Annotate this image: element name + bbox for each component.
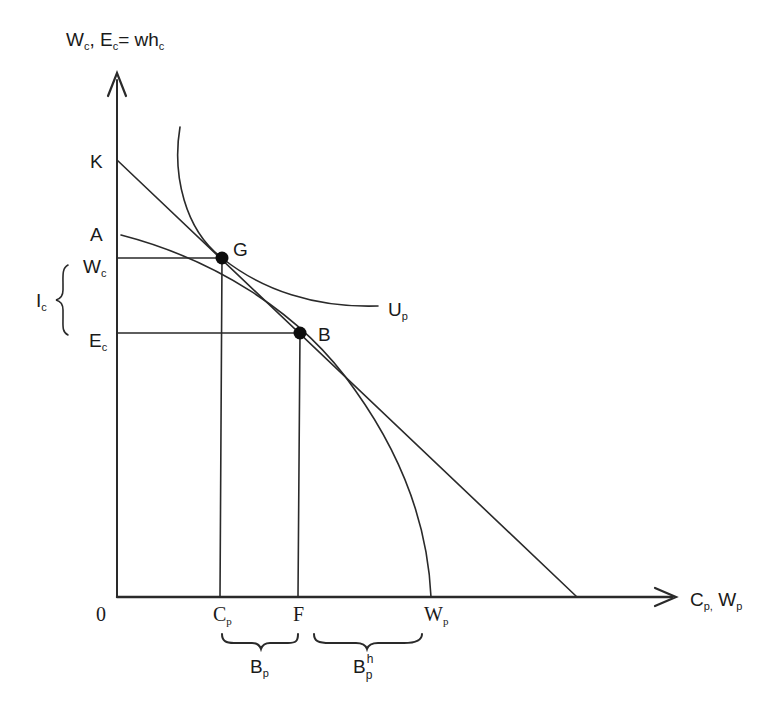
x-axis-label-sub2: p <box>736 600 742 612</box>
brace-bp <box>222 634 298 649</box>
label-k: K <box>90 152 103 171</box>
y-axis-label-eq: = wh <box>118 29 159 50</box>
label-up-main: U <box>388 299 402 320</box>
label-bph-main: B <box>353 656 366 677</box>
label-bph-sup: h <box>367 653 374 665</box>
label-a: A <box>90 225 103 244</box>
label-cp-sub: p <box>226 615 232 627</box>
label-bph-scripts: hp <box>366 663 376 673</box>
label-bp: Bp <box>250 657 269 679</box>
brace-bph <box>314 634 422 649</box>
label-wc: Wc <box>83 257 106 279</box>
label-f: F <box>293 604 304 624</box>
label-bp-sub: p <box>263 667 269 679</box>
label-wp-sub: p <box>443 615 449 627</box>
label-bph-sub: p <box>366 669 373 681</box>
label-up-sub: p <box>402 310 408 322</box>
label-b: B <box>318 325 331 344</box>
label-wp-main: W <box>424 603 443 625</box>
y-axis-label-sub3: c <box>159 40 165 52</box>
y-axis-label-e: , E <box>89 29 112 50</box>
label-ec-main: E <box>89 330 102 351</box>
x-axis-label-w: W <box>713 589 736 610</box>
label-wc-main: W <box>83 256 101 277</box>
x-axis-label: Cp, Wp <box>690 590 742 612</box>
label-bph: Bhp <box>353 657 376 676</box>
label-cp: Cp <box>213 604 232 627</box>
point-b-dot <box>294 327 307 340</box>
x-axis-label-c: C <box>690 589 704 610</box>
indifference-curve-up <box>178 127 378 306</box>
diagram-svg <box>0 0 780 712</box>
y-axis-label-w: W <box>66 29 84 50</box>
label-up: Up <box>388 300 408 322</box>
diagram-canvas: Wc, Ec= whc Cp, Wp K A Wc Ec Ic G B Up 0… <box>0 0 780 712</box>
x-axis-label-sub1: p, <box>704 600 713 612</box>
label-ic-sub: c <box>41 301 47 313</box>
label-wp: Wp <box>424 604 448 627</box>
label-cp-main: C <box>213 603 226 625</box>
brace-ic <box>56 265 68 335</box>
label-ic: Ic <box>36 291 47 313</box>
label-ec: Ec <box>89 331 107 353</box>
point-g-dot <box>216 252 229 265</box>
label-origin: 0 <box>96 604 106 624</box>
y-axis-label: Wc, Ec= whc <box>66 30 164 52</box>
g-vertical-projection <box>220 258 222 597</box>
b-vertical-projection <box>298 333 300 597</box>
label-wc-sub: c <box>101 267 107 279</box>
label-ec-sub: c <box>102 341 108 353</box>
label-g: G <box>233 240 248 259</box>
label-bp-main: B <box>250 656 263 677</box>
